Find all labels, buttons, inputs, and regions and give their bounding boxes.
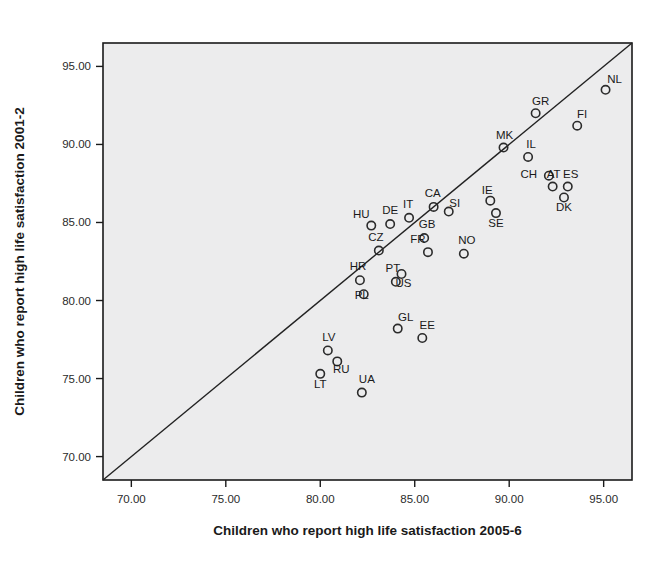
data-point-label: RU: [333, 363, 350, 375]
data-point-label: MK: [496, 129, 514, 141]
data-point-label: LT: [314, 378, 327, 390]
data-point-label: HR: [350, 260, 367, 272]
y-tick-label: 75.00: [62, 373, 91, 385]
data-point-label: GL: [398, 311, 414, 323]
data-point-label: GB: [419, 218, 436, 230]
y-tick-label: 85.00: [62, 216, 91, 228]
data-point-label: NL: [607, 73, 622, 85]
data-point-label: CH: [521, 168, 538, 180]
data-point-label: PL: [355, 289, 370, 301]
x-tick-label: 85.00: [400, 493, 429, 505]
plot-canvas: 70.0075.0080.0085.0090.0095.00 70.0075.0…: [0, 0, 663, 565]
data-point-label: AT: [547, 168, 561, 180]
x-tick-label: 75.00: [211, 493, 240, 505]
data-point-label: CZ: [368, 231, 383, 243]
x-axis-title: Children who report high life satisfacti…: [213, 523, 522, 538]
data-point-label: GR: [532, 95, 549, 107]
x-axis-ticks: 70.0075.0080.0085.0090.0095.00: [117, 480, 618, 505]
y-axis-ticks: 70.0075.0080.0085.0090.0095.00: [62, 60, 103, 462]
data-point-label: EE: [420, 319, 436, 331]
data-point-label: FR: [410, 233, 425, 245]
data-point-label: UA: [359, 373, 375, 385]
y-tick-label: 90.00: [62, 138, 91, 150]
data-point-label: SI: [449, 197, 460, 209]
data-point-label: PT: [385, 262, 400, 274]
y-tick-label: 95.00: [62, 60, 91, 72]
y-tick-label: 70.00: [62, 451, 91, 463]
data-point-label: CA: [425, 187, 441, 199]
y-tick-label: 80.00: [62, 295, 91, 307]
data-point-label: IL: [526, 138, 536, 150]
data-point-label: DE: [382, 204, 398, 216]
data-point-label: IE: [482, 184, 493, 196]
y-axis-title: Children who report high life satisfacti…: [12, 107, 27, 415]
x-tick-label: 80.00: [306, 493, 335, 505]
data-point-label: LV: [322, 331, 336, 343]
x-tick-label: 95.00: [589, 493, 618, 505]
x-tick-label: 70.00: [117, 493, 146, 505]
data-point-label: FI: [577, 108, 587, 120]
data-point-label: ES: [563, 168, 579, 180]
data-point-label: HU: [353, 208, 370, 220]
data-point-label: IT: [403, 198, 413, 210]
scatter-plot-figure: 70.0075.0080.0085.0090.0095.00 70.0075.0…: [0, 0, 663, 565]
data-point-label: DK: [556, 201, 572, 213]
x-tick-label: 90.00: [495, 493, 524, 505]
data-point-label: SE: [488, 217, 504, 229]
data-point-label: NO: [458, 234, 475, 246]
